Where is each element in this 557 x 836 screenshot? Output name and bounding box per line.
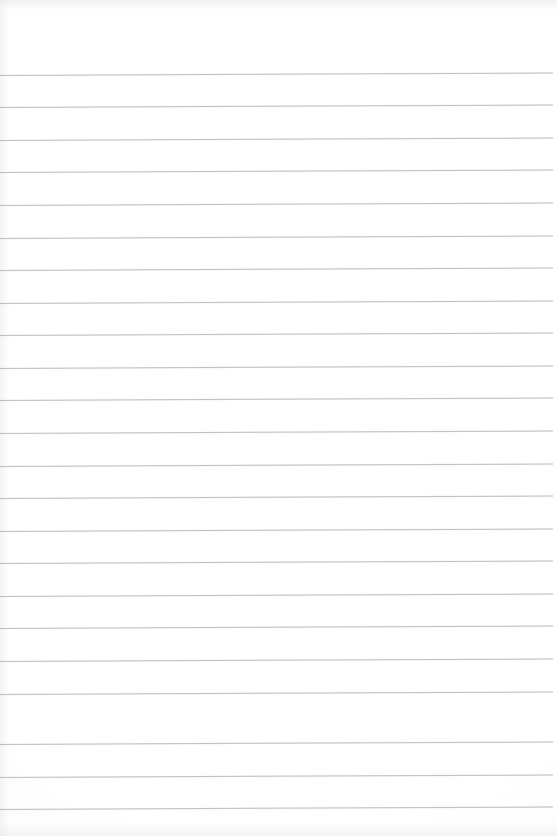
page-text-area[interactable] xyxy=(0,75,557,809)
notebook-page xyxy=(0,0,557,836)
